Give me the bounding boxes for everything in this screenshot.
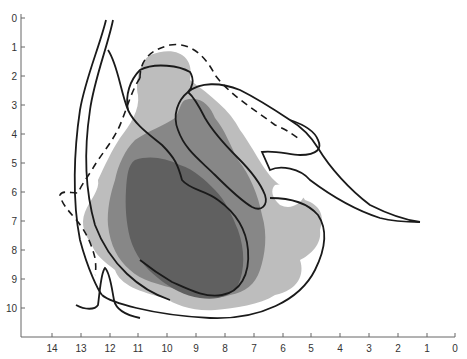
x-tick-label: 3 bbox=[366, 343, 372, 354]
x-tick-label: 7 bbox=[251, 343, 257, 354]
y-tick-label: 7 bbox=[11, 216, 17, 227]
y-tick-label: 1 bbox=[11, 42, 17, 53]
x-tick-label: 2 bbox=[395, 343, 401, 354]
y-tick-labels: 0 1 2 3 4 5 6 7 8 9 10 bbox=[6, 13, 18, 314]
x-tick-labels: 14 13 12 11 10 9 8 7 6 5 4 3 2 1 0 bbox=[46, 343, 458, 354]
y-tick-label: 10 bbox=[6, 303, 18, 314]
x-tick-label: 8 bbox=[222, 343, 228, 354]
x-tick-label: 6 bbox=[280, 343, 286, 354]
x-axis bbox=[21, 333, 455, 337]
x-tick-label: 11 bbox=[133, 343, 144, 354]
y-tick-label: 3 bbox=[11, 100, 17, 111]
y-tick-label: 6 bbox=[11, 187, 17, 198]
y-tick-label: 5 bbox=[11, 158, 17, 169]
y-tick-label: 4 bbox=[11, 129, 17, 140]
x-tick-label: 5 bbox=[308, 343, 314, 354]
x-tick-label: 13 bbox=[75, 343, 87, 354]
x-tick-label: 14 bbox=[46, 343, 58, 354]
x-tick-label: 10 bbox=[161, 343, 173, 354]
y-tick-label: 8 bbox=[11, 245, 17, 256]
x-tick-label: 1 bbox=[424, 343, 430, 354]
x-tick-label: 12 bbox=[104, 343, 116, 354]
x-tick-label: 4 bbox=[337, 343, 343, 354]
y-tick-label: 2 bbox=[11, 71, 17, 82]
contour-diagram: 0 1 2 3 4 5 6 7 8 9 10 14 13 12 11 10 9 … bbox=[0, 0, 467, 359]
y-tick-label: 0 bbox=[11, 13, 17, 24]
x-tick-label: 0 bbox=[452, 343, 458, 354]
x-tick-label: 9 bbox=[193, 343, 199, 354]
y-axis bbox=[21, 14, 25, 337]
y-tick-label: 9 bbox=[11, 274, 17, 285]
